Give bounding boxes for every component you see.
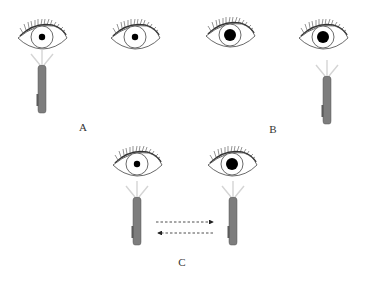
pupil-dilated xyxy=(224,29,236,41)
panel-label-a: A xyxy=(79,121,87,133)
pupil-dilated xyxy=(226,158,238,170)
eye-b-right xyxy=(299,19,348,49)
eye-b-left xyxy=(206,17,255,47)
diagram-canvas xyxy=(0,0,367,282)
eye-a-left xyxy=(18,19,67,49)
penlight-icon xyxy=(31,49,53,113)
eye-a-right xyxy=(111,19,160,49)
panel-b xyxy=(206,17,348,124)
pupil-constricted xyxy=(134,161,140,167)
eye-c-right xyxy=(208,146,257,176)
pupil-constricted xyxy=(39,34,45,40)
panel-c xyxy=(113,146,257,245)
penlight-icon xyxy=(126,181,148,245)
eye-c-left xyxy=(113,146,162,176)
panel-a xyxy=(18,19,160,113)
panel-label-c: C xyxy=(178,256,185,268)
panel-label-b: B xyxy=(269,123,276,135)
penlight-icon xyxy=(222,181,244,245)
penlight-icon xyxy=(316,60,338,124)
pupil-constricted xyxy=(132,34,138,40)
pupil-dilated xyxy=(317,31,329,43)
